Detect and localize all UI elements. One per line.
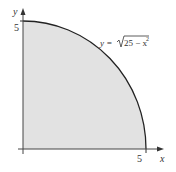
y-axis-label: y (12, 6, 18, 17)
equation-lhs: y = (99, 38, 112, 48)
equation-radicand: 25 − x (124, 38, 148, 48)
y-axis-arrow-icon (21, 8, 26, 15)
curve-equation-label: y = 25 − x 2 (99, 36, 149, 48)
x-tick-label: 5 (137, 153, 142, 164)
equation-exponent: 2 (146, 36, 149, 42)
x-axis-label: x (159, 153, 165, 164)
y-tick-label: 5 (14, 22, 19, 33)
x-axis-arrow-icon (157, 147, 164, 152)
diagram-canvas: y 5 5 x y = 25 − x 2 (0, 0, 176, 172)
quarter-circle-diagram: y 5 5 x y = 25 − x 2 (0, 0, 176, 172)
